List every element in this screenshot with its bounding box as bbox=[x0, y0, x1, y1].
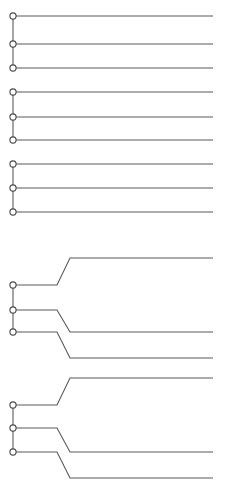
terminal-node-circle[interactable] bbox=[10, 137, 16, 143]
terminal-node-circle[interactable] bbox=[10, 185, 16, 191]
terminal-node-circle[interactable] bbox=[10, 41, 16, 47]
terminal-node-circle[interactable] bbox=[10, 65, 16, 71]
signal-diagram-canvas bbox=[0, 0, 229, 493]
terminal-node-circle[interactable] bbox=[10, 282, 16, 288]
terminal-node-circle[interactable] bbox=[10, 449, 16, 455]
terminal-node-circle[interactable] bbox=[10, 13, 16, 19]
terminal-node-circle[interactable] bbox=[10, 161, 16, 167]
terminal-node-circle[interactable] bbox=[10, 89, 16, 95]
terminal-node-circle[interactable] bbox=[10, 307, 16, 313]
terminal-node-circle[interactable] bbox=[10, 425, 16, 431]
terminal-node-circle[interactable] bbox=[10, 402, 16, 408]
terminal-node-circle[interactable] bbox=[10, 209, 16, 215]
diagram-background bbox=[0, 0, 229, 493]
terminal-node-circle[interactable] bbox=[10, 329, 16, 335]
terminal-node-circle[interactable] bbox=[10, 114, 16, 120]
signal-diagram bbox=[0, 0, 229, 493]
